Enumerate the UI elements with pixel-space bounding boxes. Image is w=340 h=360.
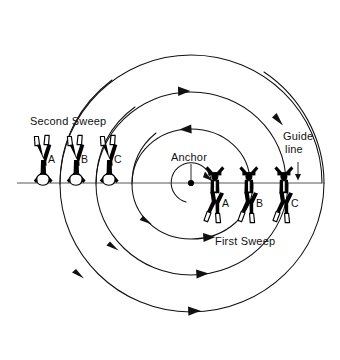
spiral-arrowhead-3-bottom (188, 307, 201, 316)
spiral-tail-mid (60, 80, 112, 184)
first-sweep-label-b: B (256, 197, 263, 209)
spiral-arrowhead-2-left (106, 241, 118, 250)
spiral-arrowhead-1-bottom (203, 233, 215, 242)
spiral-tail-outer (264, 72, 324, 183)
second-sweep-label-b: B (81, 153, 88, 165)
spiral-arrowhead-2-right (272, 113, 283, 125)
first-sweep-figure-c (273, 166, 293, 222)
anchor-marker-group (188, 164, 194, 186)
spiral-arrowhead-3-left (72, 269, 84, 279)
first-sweep-figures-group (204, 166, 293, 222)
spiral-arrowhead-1-top (179, 124, 192, 133)
spiral-arrowhead-2-top (178, 87, 190, 96)
label-guide-line-row1: Guide (283, 130, 313, 142)
guide-line-pointer-group (295, 162, 301, 180)
label-guide-line-row2: line (285, 143, 303, 155)
first-sweep-figure-b (238, 166, 258, 222)
spiral-arrowhead-2-bottom (196, 269, 209, 278)
label-anchor: Anchor (171, 151, 207, 163)
second-sweep-label-a: A (48, 153, 55, 165)
spiral-tail-innermost (132, 133, 156, 184)
spiral-sweep-diagram: Second Sweep First Sweep Anchor Guide li… (0, 0, 340, 360)
first-sweep-label-a: A (222, 197, 229, 209)
label-second-sweep: Second Sweep (30, 115, 106, 127)
first-sweep-label-c: C (291, 197, 299, 209)
spiral-arrowhead-1-left (140, 216, 152, 225)
diagram-canvas: Second Sweep First Sweep Anchor Guide li… (0, 0, 340, 360)
guide-line-arrow-icon (295, 174, 301, 180)
second-sweep-label-c: C (114, 153, 122, 165)
anchor-dot (188, 180, 194, 186)
label-first-sweep: First Sweep (215, 235, 275, 247)
